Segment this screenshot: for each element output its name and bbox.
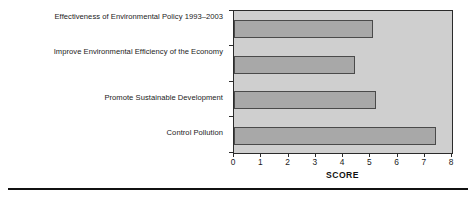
category-label: Effectiveness of Environmental Policy 19… xyxy=(5,12,223,23)
x-axis-title: SCORE xyxy=(233,170,452,180)
category-label: Control Pollution xyxy=(5,128,223,139)
bar-series-item xyxy=(234,20,373,38)
x-axis-tick-label: 8 xyxy=(442,157,460,167)
bar-chart-figure: Effectiveness of Environmental Policy 19… xyxy=(0,0,476,197)
category-label: Improve Environmental Efficiency of the … xyxy=(5,47,223,58)
x-axis-tick-label: 5 xyxy=(360,157,378,167)
category-label-column: Effectiveness of Environmental Policy 19… xyxy=(0,10,228,152)
bar-series-item xyxy=(234,56,355,74)
x-axis-tick-label: 4 xyxy=(333,157,351,167)
bar-series-item xyxy=(234,91,376,109)
x-axis-tick-label: 1 xyxy=(251,157,269,167)
bottom-divider-rule xyxy=(8,188,468,190)
x-axis-tick-label: 6 xyxy=(388,157,406,167)
x-axis-tick-label: 0 xyxy=(224,157,242,167)
bar-series-item xyxy=(234,127,436,145)
plot-area xyxy=(233,10,453,154)
x-axis-tick-label: 2 xyxy=(279,157,297,167)
category-label: Promote Sustainable Development xyxy=(5,93,223,104)
x-axis-tick-labels: 012345678 xyxy=(233,157,452,170)
x-axis-tick-label: 7 xyxy=(415,157,433,167)
x-axis-tick-label: 3 xyxy=(306,157,324,167)
